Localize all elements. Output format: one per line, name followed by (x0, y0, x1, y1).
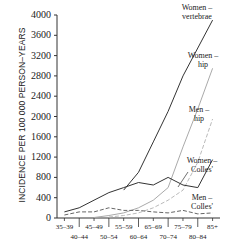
y-tick-label: 4000 (31, 9, 51, 20)
y-tick-label: 400 (36, 192, 51, 203)
series-labels: Women –vertebraeWomen –hipMen –hipWomen … (178, 3, 219, 211)
label-men-hip: Men –hip (189, 105, 211, 123)
y-tick-label: 3600 (31, 29, 51, 40)
x-tick-label: 80–84 (189, 233, 207, 241)
y-axis: 040080012001600200024002800320036004000 (31, 9, 57, 223)
x-tick-label: 65–69 (145, 223, 163, 231)
x-tick-label: 75–79 (174, 223, 192, 231)
series-lines (64, 20, 212, 217)
y-tick-label: 1200 (31, 151, 51, 162)
label-men-colles: Men –Colles' (191, 193, 213, 211)
y-tick-label: 2000 (31, 111, 51, 122)
y-tick-label: 3200 (31, 50, 51, 61)
label-women-hip: Women –hip (188, 51, 220, 69)
y-tick-label: 1600 (31, 131, 51, 142)
x-tick-label: 85+ (207, 223, 218, 231)
x-tick-label: 40–44 (70, 233, 88, 241)
y-tick-label: 2400 (31, 90, 51, 101)
y-tick-label: 800 (36, 171, 51, 182)
y-tick-label: 2800 (31, 70, 51, 81)
x-tick-label: 60–64 (130, 233, 148, 241)
label-women-colles: Women –Colles' (187, 156, 219, 174)
x-tick-label: 35–39 (56, 223, 74, 231)
x-axis: 35–3940–4445–4950–5455–5960–6465–6970–74… (56, 218, 220, 241)
x-tick-label: 70–74 (159, 233, 177, 241)
y-tick-label: 0 (46, 212, 51, 223)
x-tick-label: 45–49 (85, 223, 103, 231)
label-women-vertebrae: Women –vertebrae (182, 3, 214, 21)
x-tick-label: 50–54 (100, 233, 118, 241)
x-tick-label: 55–59 (115, 223, 133, 231)
line-chart: 040080012001600200024002800320036004000 … (0, 0, 227, 244)
